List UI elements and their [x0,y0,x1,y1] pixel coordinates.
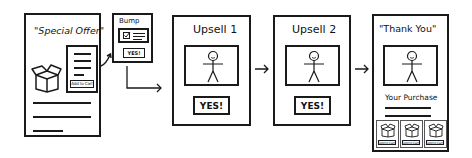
upsell-1-video-frame [184,45,239,86]
box-icon [381,124,395,137]
upsell-2-page: Upsell 2 YES! [273,15,351,126]
upsell-2-yes-button[interactable]: YES! [294,96,331,115]
upsell-2-title: Upsell 2 [292,23,336,36]
text-line [385,107,431,109]
text-line [74,74,84,76]
upsell-1-page: Upsell 1 YES! [172,15,251,126]
box-icon [405,124,419,137]
text-line [74,53,91,55]
text-line [133,33,145,34]
product-3-add-to-cart[interactable]: Add to Cart [426,140,444,145]
upsell-1-title: Upsell 1 [193,23,237,36]
text-line [133,39,142,40]
text-line [74,67,91,69]
product-2-add-to-cart[interactable]: Add to Cart [402,140,420,145]
product-tile-2[interactable]: Add to Cart [400,120,423,148]
thank-you-page: "Thank You" Your Purchase Add to Cart Ad… [372,14,449,152]
text-line [33,116,91,118]
text-line [33,130,63,132]
bump-title: Bump [119,17,140,25]
thank-you-video-frame [383,45,438,86]
stick-figure-icon [201,50,225,84]
arrow-to-thank-you [354,64,370,74]
box-icon [429,124,443,137]
open-box-icon [32,63,62,93]
special-offer-page: "Special Offer" Add to Cart [24,13,101,137]
product-tile-1[interactable]: Add to Cart [376,120,399,148]
product-1-add-to-cart[interactable]: Add to Cart [378,140,396,145]
your-purchase-label: Your Purchase [385,93,437,102]
bump-offer: Bump YES! [112,13,153,63]
thank-you-title: "Thank You" [379,23,436,34]
checkbox-checked-icon [123,32,130,39]
bump-checkbox-panel [118,28,149,43]
text-line [385,115,431,117]
add-to-cart-button[interactable]: Add to Cart [70,80,94,88]
arrow-to-upsell-2 [254,64,270,74]
product-panel: Add to Cart [66,45,98,93]
arrow-to-upsell-1 [125,64,165,90]
stick-figure-icon [302,50,326,84]
bump-yes-button[interactable]: YES! [123,48,145,58]
text-line [74,60,91,62]
text-line [133,36,145,37]
text-line [33,102,91,104]
upsell-2-video-frame [285,45,340,86]
product-tile-3[interactable]: Add to Cart [424,120,447,148]
upsell-1-yes-button[interactable]: YES! [193,96,230,115]
special-offer-title: "Special Offer" [34,25,104,36]
stick-figure-icon [400,50,424,84]
